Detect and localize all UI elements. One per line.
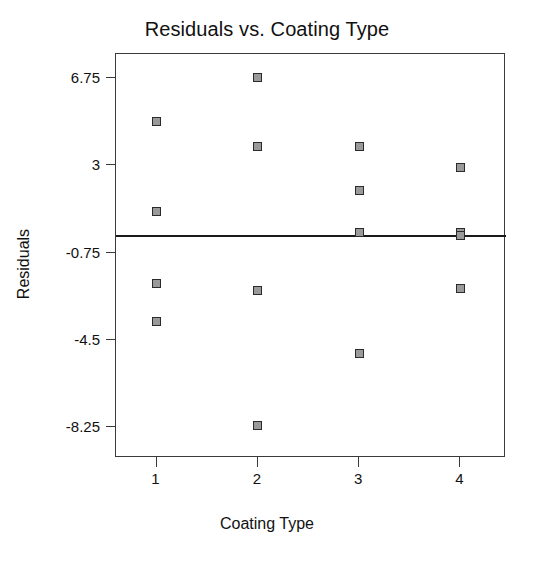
x-tick-label: 3: [338, 470, 378, 487]
x-tick-label: 4: [439, 470, 479, 487]
x-tick-mark: [156, 457, 157, 467]
residuals-scatter-figure: Residuals vs. Coating Type 6.753-0.75-4.…: [0, 0, 534, 572]
x-tick-label: 1: [136, 470, 176, 487]
x-tick-mark: [358, 457, 359, 467]
x-tick-label: 2: [237, 470, 277, 487]
x-tick-mark: [257, 457, 258, 467]
x-tick-mark: [459, 457, 460, 467]
x-axis-ticks: 1234: [0, 0, 534, 572]
x-axis-title: Coating Type: [0, 515, 534, 533]
y-axis-title: Residuals: [15, 194, 33, 334]
